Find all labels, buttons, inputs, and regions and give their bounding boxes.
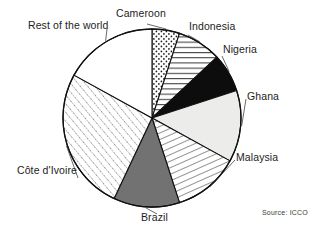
callout-ghana xyxy=(242,99,246,126)
pie-slices-group xyxy=(63,29,241,207)
pie-label-nigeria: Nigeria xyxy=(223,44,257,56)
source-note: Source: ICCO xyxy=(262,209,308,216)
pie-chart-canvas xyxy=(0,0,331,232)
pie-label-ghana: Ghana xyxy=(247,91,279,103)
pie-chart-figure: Rest of the world Cameroon Indonesia Nig… xyxy=(0,0,331,232)
pie-label-rest-of-the-world: Rest of the world xyxy=(28,20,109,32)
pie-label-cote-divoire: Côte d'Ivoire xyxy=(17,165,77,177)
pie-label-indonesia: Indonesia xyxy=(189,21,235,33)
pie-label-cameroon: Cameroon xyxy=(116,8,166,20)
callout-cameroon xyxy=(147,24,166,29)
pie-label-malaysia: Malaysia xyxy=(236,152,278,164)
pie-label-brazil: Brazil xyxy=(141,212,168,224)
